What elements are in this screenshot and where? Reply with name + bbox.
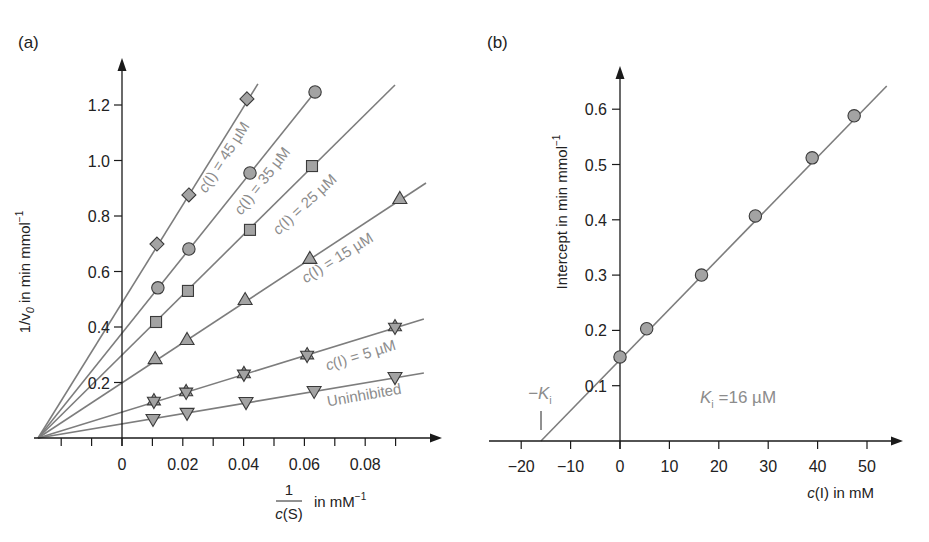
figure: (a) 00.020.040.060.08 0.20.40.60.81.01.2… [0, 0, 929, 542]
ki-value-annotation: Ki =16 µM [700, 388, 776, 410]
circle-marker-icon [614, 351, 626, 363]
svg-text:1: 1 [285, 481, 293, 498]
panel-a-y-axis-label: 1/v0 in min mmol−1 [14, 210, 36, 333]
y-tick-label: 1.0 [88, 153, 110, 170]
x-tick-label: 40 [809, 458, 827, 475]
y-tick-label: 0.4 [585, 212, 607, 229]
panel-b-x-axis-label: c(I) in mM [807, 484, 874, 501]
svg-text:−Ki: −Ki [528, 384, 552, 406]
y-tick-label: 0.6 [585, 101, 607, 118]
y-tick-label: 0.3 [585, 267, 607, 284]
circle-marker-icon [309, 86, 321, 98]
star-marker-icon [147, 394, 160, 409]
panel-a-x-axis-label: 1 c(S) in mM−1 [275, 481, 366, 522]
star-marker-icon [388, 320, 401, 335]
neg-ki-annotation: −Ki [528, 384, 552, 430]
panel-a-x-ticks: 00.020.040.060.08 [61, 438, 395, 473]
panel-b-y-axis-label: Intercept in min mmol−1 [551, 134, 570, 289]
circle-marker-icon [695, 269, 707, 281]
y-tick-label: 1.2 [88, 97, 110, 114]
series-line [38, 84, 258, 438]
x-tick-label: 10 [661, 458, 679, 475]
panel-b-x-ticks: −20−1001020304050 [508, 441, 876, 475]
panel-a-label: (a) [18, 33, 39, 52]
panel-a-y-ticks: 0.20.40.60.81.01.2 [88, 97, 122, 392]
diamond-marker-icon [182, 188, 196, 202]
star-marker-icon [237, 366, 250, 381]
y-tick-label: 0.4 [88, 319, 110, 336]
x-tick-label: −20 [508, 458, 535, 475]
circle-marker-icon [848, 110, 860, 122]
panel-a-series-labels: Uninhibitedc(I) = 5 µMc(I) = 15 µMc(I) =… [194, 119, 402, 410]
panel-b-y-ticks: 0.10.20.30.40.50.6 [585, 101, 620, 395]
panel-b-x-axis-arrow-icon [891, 437, 903, 446]
panel-a-x-axis-arrow-icon [430, 434, 442, 443]
series-label: c(I) = 35 µM [230, 144, 293, 218]
x-tick-label: −10 [557, 458, 584, 475]
star-marker-icon [180, 384, 193, 399]
panel-a-y-axis-arrow-icon [118, 58, 127, 71]
x-tick-label: 20 [710, 458, 728, 475]
panel-b-replot: (b) −20−1001020304050 0.10.20.30.40.50.6… [487, 33, 903, 501]
y-tick-label: 0.8 [88, 208, 110, 225]
square-marker-icon [182, 285, 193, 296]
circle-marker-icon [640, 323, 652, 335]
triangle-down-marker-icon [146, 414, 160, 426]
x-tick-label: 50 [858, 458, 876, 475]
square-marker-icon [244, 224, 255, 235]
y-tick-label: 0.1 [585, 378, 607, 395]
x-tick-label: 0.02 [167, 456, 198, 473]
x-tick-label: 0 [118, 456, 127, 473]
square-marker-icon [151, 317, 162, 328]
y-tick-label: 0.2 [88, 375, 110, 392]
x-tick-label: 30 [759, 458, 777, 475]
star-marker-icon [301, 348, 314, 363]
y-tick-label: 0.2 [585, 322, 607, 339]
circle-marker-icon [183, 243, 195, 255]
series-line [38, 92, 315, 438]
square-marker-icon [307, 161, 318, 172]
x-tick-label: 0.06 [289, 456, 320, 473]
x-tick-label: 0 [616, 458, 625, 475]
x-tick-label: 0.08 [350, 456, 381, 473]
svg-text:c(S): c(S) [275, 505, 303, 522]
panel-b-data-markers [614, 110, 861, 364]
circle-marker-icon [152, 282, 164, 294]
y-tick-label: 0.5 [585, 157, 607, 174]
svg-text:in mM−1: in mM−1 [314, 491, 367, 510]
circle-marker-icon [749, 210, 761, 222]
triangle-up-marker-icon [180, 332, 194, 344]
y-tick-label: 0.6 [88, 264, 110, 281]
series-label: c(I) = 45 µM [194, 119, 252, 196]
panel-a-data-markers [146, 86, 407, 427]
circle-marker-icon [806, 152, 818, 164]
panel-b-label: (b) [487, 33, 508, 52]
x-tick-label: 0.04 [228, 456, 259, 473]
series-label: Uninhibited [326, 380, 403, 410]
series-label: c(I) = 25 µM [269, 170, 340, 238]
panel-b-y-axis-arrow-icon [616, 66, 625, 79]
panel-a-lineweaver-burk-plot: (a) 00.020.040.060.08 0.20.40.60.81.01.2… [14, 33, 442, 522]
series-label: c(I) = 5 µM [323, 336, 397, 373]
